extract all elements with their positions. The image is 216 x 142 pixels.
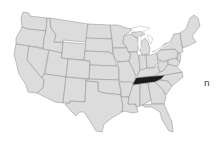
state-wyoming[interactable] — [61, 42, 86, 60]
state-colorado[interactable] — [66, 59, 90, 79]
us-map — [0, 0, 216, 142]
lake-michigan — [138, 36, 141, 51]
state-north-dakota[interactable] — [86, 24, 112, 39]
state-kansas[interactable] — [89, 65, 119, 80]
edge-text-fragment: n — [204, 79, 210, 88]
lake-superior — [130, 26, 150, 32]
state-ohio[interactable] — [146, 53, 158, 68]
state-new-england[interactable] — [180, 15, 200, 48]
state-new-mexico[interactable] — [63, 77, 86, 103]
state-florida[interactable] — [142, 104, 173, 132]
state-montana[interactable] — [50, 18, 88, 42]
